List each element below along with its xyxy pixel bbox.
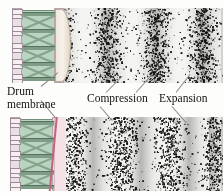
tension-lug bbox=[10, 182, 21, 191]
wave-field-bottom bbox=[59, 117, 223, 191]
label-drum-membrane-line1: Drum bbox=[7, 85, 34, 97]
tension-lug-divider bbox=[11, 187, 20, 188]
field-right-edge-bottom bbox=[221, 117, 223, 191]
air-particles-bottom bbox=[59, 117, 223, 191]
field-right-edge-top bbox=[221, 8, 223, 83]
wave-field-top bbox=[59, 8, 223, 83]
drum-membrane-bottom bbox=[54, 117, 66, 191]
air-particles-top bbox=[59, 8, 223, 83]
panel-membrane-inward bbox=[10, 117, 223, 191]
panel-membrane-outward bbox=[12, 8, 223, 83]
label-expansion: Expansion bbox=[159, 93, 208, 105]
tension-lug bbox=[12, 74, 23, 83]
label-drum-membrane-line2: membrane bbox=[7, 99, 56, 111]
tension-lug-divider bbox=[13, 79, 22, 80]
label-compression: Compression bbox=[87, 93, 148, 105]
label-drum-membrane: Drum membrane bbox=[7, 86, 56, 110]
figure-canvas: Drum membrane Compression Expansion bbox=[0, 0, 223, 193]
